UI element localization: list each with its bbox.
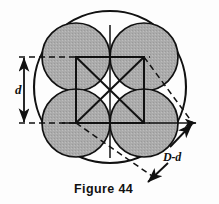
figure-drawing-canvas	[0, 0, 219, 204]
leader-arrow-down-left	[148, 163, 168, 182]
figure-44-diagram: d D-d Figure 44	[0, 0, 219, 204]
figure-caption: Figure 44	[74, 182, 133, 196]
dimension-label-d: d	[15, 82, 22, 98]
dimension-label-D-minus-d: D-d	[163, 150, 181, 165]
